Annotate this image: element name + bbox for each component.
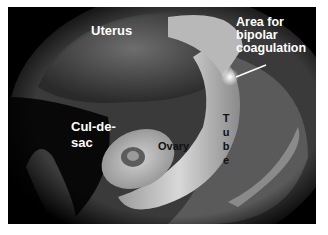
label-tube: Tube (220, 111, 232, 167)
laparoscopic-image: Uterus Area for bipolar coagulation Cul-… (8, 7, 316, 224)
label-cul-line2: sac (71, 135, 116, 151)
label-uterus: Uterus (91, 24, 132, 38)
label-ovary: Ovary (158, 141, 189, 153)
label-area-for-bipolar-coagulation: Area for bipolar coagulation (236, 16, 306, 55)
label-area-line3: coagulation (236, 42, 306, 55)
label-cul-line1: Cul-de- (71, 119, 116, 135)
label-cul-de-sac: Cul-de- sac (71, 119, 116, 152)
